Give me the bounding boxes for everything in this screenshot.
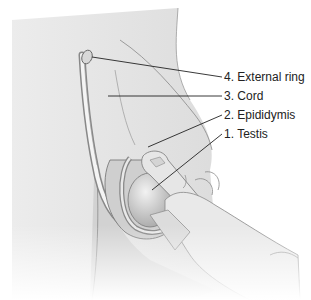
label-external-ring: 4. External ring	[224, 70, 305, 84]
illustration-drawing	[0, 0, 311, 300]
anatomy-illustration: 4. External ring 3. Cord 2. Epididymis 1…	[0, 0, 311, 300]
label-testis: 1. Testis	[224, 127, 268, 141]
label-epididymis: 2. Epididymis	[224, 108, 295, 122]
label-cord: 3. Cord	[224, 89, 263, 103]
